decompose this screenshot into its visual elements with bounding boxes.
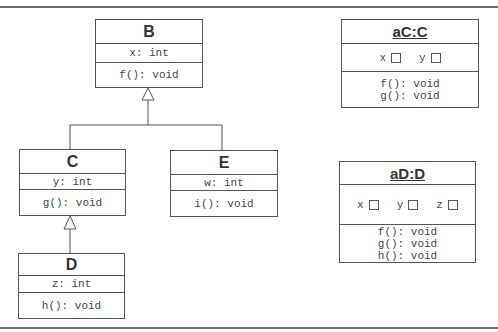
class-name: E [219,154,230,172]
slot-value-box[interactable] [391,53,401,63]
slot-value-box[interactable] [408,200,418,210]
class-name: B [143,23,155,41]
slot-value-box[interactable] [448,200,458,210]
slot-z: z [436,199,458,211]
slot-y: y [419,52,441,64]
class-attribute: y: int [53,176,93,188]
object-name: aD:D [390,165,425,182]
slot-x: x [357,199,379,211]
object-method: f(): void [380,78,439,90]
generalization-arrow-b [142,88,154,100]
class-method: h(): void [42,300,101,312]
slot-x: x [379,52,401,64]
object-name: aC:C [392,23,427,40]
slot-value-box[interactable] [369,200,379,210]
class-name: D [66,256,78,274]
object-method: g(): void [378,238,437,250]
slot-y: y [397,199,419,211]
object-ad[interactable]: aD:D x y z f(): void g(): void h(): void [339,161,476,263]
class-c[interactable]: C y: int g(): void [19,149,126,216]
class-d[interactable]: D z: int h(): void [18,253,125,319]
class-attribute: x: int [129,47,169,59]
class-e[interactable]: E w: int i(): void [170,150,278,217]
object-method: h(): void [378,250,437,262]
class-method: i(): void [194,198,253,210]
generalization-arrow-c [64,216,76,229]
class-method: g(): void [43,197,102,209]
object-method: f(): void [378,226,437,238]
class-name: C [67,153,79,171]
class-attribute: w: int [204,177,244,189]
class-method: f(): void [119,69,178,81]
class-b[interactable]: B x: int f(): void [95,19,203,88]
object-ac[interactable]: aC:C x y f(): void g(): void [341,19,479,108]
object-method: g(): void [380,90,439,102]
class-attribute: z: int [52,278,92,290]
slot-value-box[interactable] [431,53,441,63]
